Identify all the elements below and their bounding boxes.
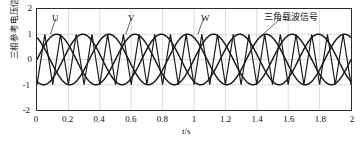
annotation-label-u: U [52, 14, 59, 23]
figure: 三相参考电压信号/V 2 1 0 -1 -2 0 0.2 0.4 0.6 0.8… [0, 0, 364, 142]
x-axis-title: t/s [182, 127, 191, 136]
y-tick-label: -1 [8, 81, 30, 90]
x-tick-label: 0.6 [116, 115, 146, 124]
x-tick-label: 0.4 [84, 115, 114, 124]
annotation-label-w: W [201, 14, 210, 23]
annotation-label-v: V [128, 14, 135, 23]
x-tick-label: 0.8 [147, 115, 177, 124]
waveform-canvas [37, 9, 351, 110]
x-tick-label: 1.8 [305, 115, 335, 124]
y-tick-label: -2 [8, 106, 30, 115]
y-tick-label: 2 [10, 4, 32, 13]
x-tick-label: 1.4 [242, 115, 272, 124]
y-tick-label: 1 [10, 30, 32, 39]
x-tick-label: 0.2 [53, 115, 83, 124]
x-tick-label: 1 [179, 115, 209, 124]
annotation-label-carrier: 三角载波信号 [264, 13, 317, 22]
x-tick-label: 1.6 [274, 115, 304, 124]
y-tick-label: 0 [10, 55, 32, 64]
x-tick-label: 0 [21, 115, 51, 124]
plot-area [36, 8, 352, 111]
x-tick-label: 2 [337, 115, 364, 124]
x-tick-label: 1.2 [211, 115, 241, 124]
x-axis-title-den: /s [185, 126, 191, 136]
